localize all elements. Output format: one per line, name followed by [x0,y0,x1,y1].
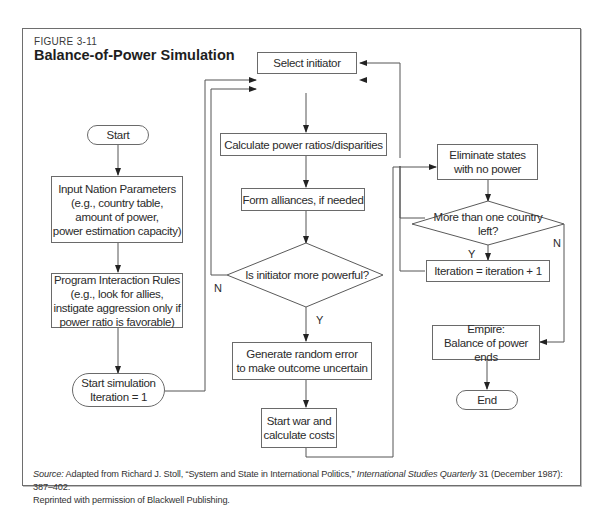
source-citation: Source: Adapted from Richard J. Stoll, “… [33,468,573,507]
decision-initiator-more-powerful: Is initiator more powerful? [240,264,374,286]
select-initiator-box: Select initiator [257,52,357,74]
program-interaction-rules-box: Program Interaction Rules (e.g., look fo… [51,273,183,328]
start-simulation-terminal: Start simulation Iteration = 1 [72,373,165,407]
calculate-power-ratios-box: Calculate power ratios/disparities [220,133,387,156]
edge-label-yes-countries: Y [468,248,475,260]
start-war-box: Start war and calculate costs [261,408,337,448]
edge-label-yes-powerful: Y [316,314,323,326]
source-journal: International Studies Quarterly [357,469,476,479]
iteration-increment-box: Iteration = iteration + 1 [426,260,550,282]
end-terminal: End [456,390,518,410]
generate-random-error-box: Generate random error to make outcome un… [232,342,372,380]
start-terminal: Start [87,125,149,145]
edge-label-no-powerful: N [214,282,222,294]
source-line-2: Reprinted with permission of Blackwell P… [33,495,230,505]
edge-label-no-countries: N [553,237,561,249]
input-nation-parameters-box: Input Nation Parameters (e.g., country t… [51,176,183,243]
empire-balance-ends-box: Empire: Balance of power ends [432,325,540,360]
source-prefix: Source: [33,469,64,479]
source-text-1: Adapted from Richard J. Stoll, “System a… [64,469,357,479]
form-alliances-box: Form alliances, if needed [241,188,365,211]
decision-more-than-one-country: More than one country left? [425,210,551,238]
eliminate-states-box: Eliminate states with no power [437,144,538,180]
